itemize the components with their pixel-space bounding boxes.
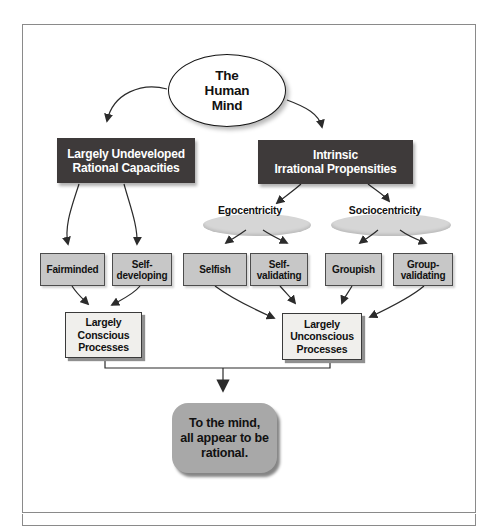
figure-page: The Human Mind Largely Undeveloped Ratio…: [0, 0, 498, 527]
sociocentricity-ellipse: [331, 214, 451, 236]
egocentricity-ellipse: [203, 214, 311, 236]
egocentricity-label: Egocentricity: [200, 204, 300, 216]
group-validating-box: Group- validating: [393, 253, 453, 286]
conclusion-box: To the mind, all appear to be rational.: [172, 403, 277, 473]
self-validating-box: Self- validating: [250, 253, 308, 286]
conscious-processes-box: Largely Conscious Processes: [65, 312, 142, 358]
human-mind-ellipse: The Human Mind: [168, 54, 286, 127]
unconscious-processes-box: Largely Unconscious Processes: [282, 313, 362, 360]
figure-footer-frame: [22, 514, 476, 526]
selfish-box: Selfish: [183, 253, 247, 286]
irrational-propensities-box: Intrinsic Irrational Propensities: [258, 140, 413, 184]
groupish-box: Groupish: [325, 253, 382, 286]
fairminded-box: Fairminded: [40, 253, 105, 286]
self-developing-box: Self- developing: [112, 253, 172, 286]
rational-capacities-box: Largely Undeveloped Rational Capacities: [57, 138, 195, 183]
sociocentricity-label: Sociocentricity: [335, 204, 435, 216]
